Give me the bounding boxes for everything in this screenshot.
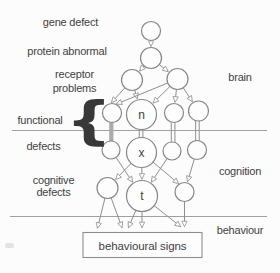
behavioural-signs-label: behavioural signs: [99, 240, 187, 252]
label-protein-abnormal: protein abnormal: [27, 45, 106, 57]
brace-functional-defects: {: [66, 89, 112, 150]
node-gene-defect: [142, 22, 161, 41]
label-receptor: receptor: [55, 68, 94, 80]
node-defect-col3: [163, 142, 181, 160]
label-cognition: cognition: [219, 165, 261, 177]
node-functional-col3: [165, 104, 184, 123]
label-problems: problems: [53, 82, 97, 94]
node-functional-col4: [189, 101, 209, 121]
label-cognitive-defects: defects: [36, 186, 71, 198]
scan-artifact: [5, 243, 14, 248]
label-gene-defect: gene defect: [43, 16, 98, 28]
label-functional: functional: [17, 114, 62, 126]
node-receptor-right: [167, 69, 188, 90]
node-x-label: x: [139, 146, 145, 160]
label-cognitive: cognitive: [33, 174, 75, 186]
nodes: [97, 22, 209, 212]
pathway-diagram: n x t behavioural signs { gene defect pr…: [0, 0, 280, 273]
node-cognitive-left: [97, 178, 118, 199]
node-n-label: n: [138, 108, 145, 122]
node-defect-col4: [188, 141, 207, 160]
node-receptor-left: [122, 70, 143, 91]
node-protein-abnormal: [141, 48, 162, 69]
node-cognition-right: [175, 183, 194, 202]
label-defects: defects: [26, 140, 61, 152]
label-brain: brain: [228, 71, 252, 83]
diagram-canvas: n x t behavioural signs { gene defect pr…: [0, 0, 280, 273]
label-behaviour: behaviour: [217, 224, 264, 236]
